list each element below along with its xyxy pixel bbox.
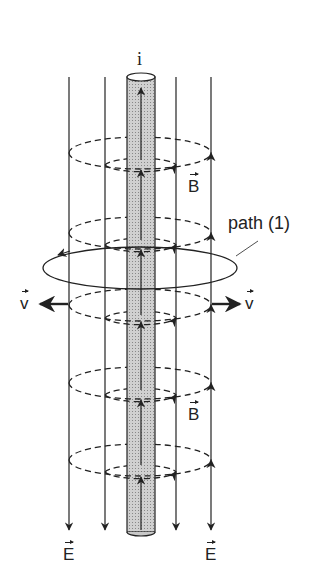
velocity-label-right: v [245,295,254,312]
wire-field-diagram [0,0,321,579]
current-label: i [137,50,142,68]
path-label: path (1) [228,214,290,232]
e-field-label-left: E [63,546,74,563]
b-field-label-upper: B [188,178,199,195]
e-field-label-right: E [205,546,216,563]
b-field-label-lower: B [188,406,199,423]
velocity-label-left: v [20,295,29,312]
